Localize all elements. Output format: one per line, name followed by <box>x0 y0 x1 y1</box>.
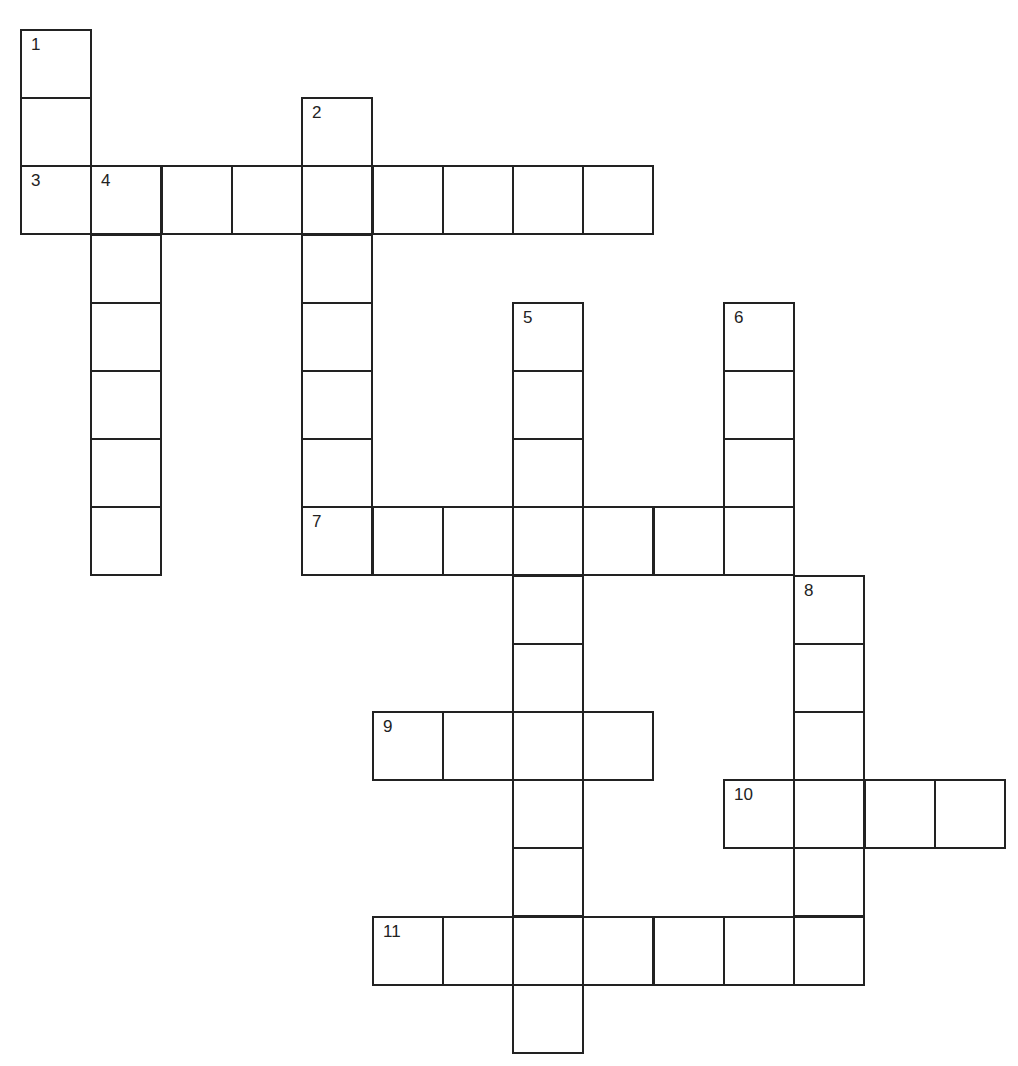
crossword-cell[interactable] <box>442 711 514 781</box>
crossword-cell[interactable] <box>512 984 584 1054</box>
clue-number: 11 <box>383 923 401 940</box>
crossword-cell[interactable] <box>582 916 654 986</box>
clue-number: 8 <box>804 582 813 599</box>
crossword-cell[interactable] <box>512 506 584 576</box>
crossword-cell[interactable] <box>793 779 865 849</box>
clue-number: 1 <box>31 36 40 53</box>
crossword-cell[interactable] <box>512 779 584 849</box>
crossword-cell[interactable]: 7 <box>301 506 373 576</box>
crossword-cell[interactable]: 8 <box>793 575 865 645</box>
crossword-cell[interactable] <box>793 916 865 986</box>
crossword-cell[interactable] <box>512 711 584 781</box>
crossword-cell[interactable]: 4 <box>90 165 162 235</box>
crossword-cell[interactable]: 10 <box>723 779 795 849</box>
crossword-cell[interactable] <box>512 916 584 986</box>
crossword-cell[interactable] <box>582 711 654 781</box>
crossword-cell[interactable] <box>723 438 795 508</box>
crossword-cell[interactable] <box>301 370 373 440</box>
crossword-cell[interactable] <box>90 370 162 440</box>
crossword-cell[interactable] <box>723 370 795 440</box>
clue-number: 10 <box>734 786 753 803</box>
crossword-cell[interactable] <box>653 506 725 576</box>
crossword-cell[interactable] <box>442 165 514 235</box>
crossword-cell[interactable]: 2 <box>301 97 373 167</box>
crossword-cell[interactable] <box>301 438 373 508</box>
clue-number: 4 <box>101 172 110 189</box>
crossword-cell[interactable] <box>512 847 584 917</box>
crossword-cell[interactable] <box>582 165 654 235</box>
crossword-cell[interactable] <box>90 438 162 508</box>
crossword-cell[interactable] <box>372 506 444 576</box>
crossword-cell[interactable]: 1 <box>20 29 92 99</box>
crossword-cell[interactable] <box>442 916 514 986</box>
crossword-cell[interactable] <box>512 438 584 508</box>
crossword-grid: 1327456891011 <box>0 0 1018 1066</box>
crossword-cell[interactable] <box>653 916 725 986</box>
crossword-cell[interactable] <box>723 916 795 986</box>
crossword-cell[interactable] <box>231 165 303 235</box>
clue-number: 9 <box>383 718 392 735</box>
crossword-cell[interactable] <box>90 234 162 304</box>
crossword-cell[interactable] <box>864 779 936 849</box>
clue-number: 6 <box>734 309 743 326</box>
clue-number: 7 <box>312 513 321 530</box>
clue-number: 5 <box>523 309 532 326</box>
crossword-cell[interactable]: 5 <box>512 302 584 372</box>
crossword-cell[interactable] <box>512 370 584 440</box>
crossword-cell[interactable] <box>442 506 514 576</box>
clue-number: 3 <box>31 172 40 189</box>
crossword-cell[interactable] <box>512 165 584 235</box>
crossword-cell[interactable] <box>90 302 162 372</box>
crossword-cell[interactable]: 11 <box>372 916 444 986</box>
crossword-cell[interactable]: 9 <box>372 711 444 781</box>
crossword-cell[interactable] <box>723 506 795 576</box>
crossword-cell[interactable] <box>793 847 865 917</box>
crossword-cell[interactable] <box>582 506 654 576</box>
crossword-cell[interactable] <box>301 234 373 304</box>
crossword-cell[interactable] <box>793 643 865 713</box>
crossword-cell[interactable] <box>161 165 233 235</box>
crossword-cell[interactable]: 6 <box>723 302 795 372</box>
crossword-cell[interactable] <box>372 165 444 235</box>
crossword-cell[interactable] <box>301 302 373 372</box>
crossword-cell[interactable] <box>512 575 584 645</box>
crossword-cell[interactable] <box>793 711 865 781</box>
crossword-cell[interactable] <box>301 165 373 235</box>
crossword-cell[interactable] <box>20 97 92 167</box>
crossword-cell[interactable] <box>90 506 162 576</box>
crossword-cell[interactable] <box>512 643 584 713</box>
crossword-cell[interactable] <box>934 779 1006 849</box>
crossword-cell[interactable]: 3 <box>20 165 92 235</box>
clue-number: 2 <box>312 104 321 121</box>
